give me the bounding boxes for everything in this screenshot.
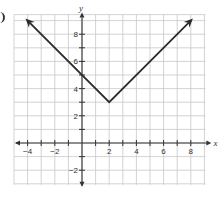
svg-text:−2: −2 [69, 166, 79, 175]
svg-text:8: 8 [189, 147, 194, 156]
svg-text:−2: −2 [50, 147, 60, 156]
svg-text:−4: −4 [23, 147, 33, 156]
svg-text:4: 4 [74, 85, 79, 94]
svg-text:2: 2 [74, 112, 79, 121]
x-axis-label: x [212, 138, 217, 148]
tick-labels: −4−22468−22468 [23, 30, 194, 175]
y-axis-label: y [78, 3, 83, 13]
svg-text:6: 6 [74, 57, 79, 66]
svg-text:6: 6 [161, 147, 166, 156]
svg-text:8: 8 [74, 30, 79, 39]
coordinate-plane: −4−22468−22468 x y [0, 0, 223, 198]
svg-text:4: 4 [134, 147, 139, 156]
svg-text:2: 2 [107, 147, 112, 156]
grid-lines [14, 15, 205, 185]
